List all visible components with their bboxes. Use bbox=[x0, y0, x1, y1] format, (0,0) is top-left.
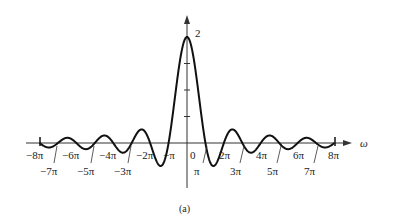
tick-label-p2: 2π bbox=[219, 149, 231, 161]
tick-label-m3: −3π bbox=[114, 165, 132, 177]
tick-label-m7: −7π bbox=[40, 165, 58, 177]
y-axis-arrow-icon bbox=[184, 15, 190, 24]
x-axis-arrow-icon bbox=[343, 140, 352, 146]
tick-label-m1: −π bbox=[163, 149, 175, 161]
tick-label-m4: −4π bbox=[99, 149, 117, 161]
tick-label-m5: −5π bbox=[77, 165, 95, 177]
sinc-chart: 2 ω −8π −6π −4π −2π −π 0 2π 4π 6π 8π −7π… bbox=[0, 0, 406, 223]
tick-label-p6: 6π bbox=[293, 149, 305, 161]
tick-label-p8: 8π bbox=[328, 149, 340, 161]
label-leaders bbox=[54, 146, 318, 163]
tick-label-p7: 7π bbox=[304, 165, 316, 177]
tick-label-p4: 4π bbox=[256, 149, 268, 161]
tick-label-p3: 3π bbox=[230, 165, 242, 177]
x-axis-label: ω bbox=[360, 137, 368, 149]
tick-label-p5: 5π bbox=[267, 165, 279, 177]
y-peak-label: 2 bbox=[195, 27, 201, 39]
tick-label-zero: 0 bbox=[190, 149, 196, 161]
figure-caption: (a) bbox=[179, 203, 190, 215]
tick-label-m6: −6π bbox=[62, 149, 80, 161]
tick-label-p1: π bbox=[194, 165, 200, 177]
tick-label-m2: −2π bbox=[136, 149, 154, 161]
tick-label-m8: −8π bbox=[26, 149, 44, 161]
